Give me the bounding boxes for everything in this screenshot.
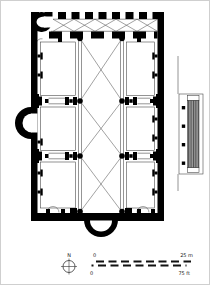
scale-bar: 0 25 m 0 75 ft <box>90 252 193 276</box>
nave-vault-lines <box>80 39 122 213</box>
tower-interior <box>37 17 54 28</box>
metric-zero-label: 0 <box>93 252 96 258</box>
floor-plan-svg: N 0 25 m 0 75 ft <box>1 1 211 285</box>
bottom-apse <box>84 220 118 237</box>
colonnade-rows <box>45 36 154 215</box>
narthex-vault-lines <box>53 19 158 31</box>
imperial-zero-label: 0 <box>90 270 93 276</box>
annex-columns <box>182 106 185 165</box>
side-annex <box>178 56 203 191</box>
imperial-max-label: 75 ft <box>178 270 190 276</box>
cruciform-piers <box>31 94 164 163</box>
floor-plan-figure: N 0 25 m 0 75 ft <box>0 0 210 285</box>
door-arcs <box>36 39 149 213</box>
north-compass: N <box>61 252 77 275</box>
walls <box>31 12 164 221</box>
bay-outlines <box>41 19 158 212</box>
north-label: N <box>67 252 71 258</box>
right-wall-piers <box>152 53 157 196</box>
stair-block <box>188 101 200 168</box>
nave-columns <box>77 36 125 215</box>
metric-max-label: 25 m <box>180 252 193 258</box>
left-wall-piers <box>38 53 43 196</box>
church-plan <box>15 12 164 237</box>
